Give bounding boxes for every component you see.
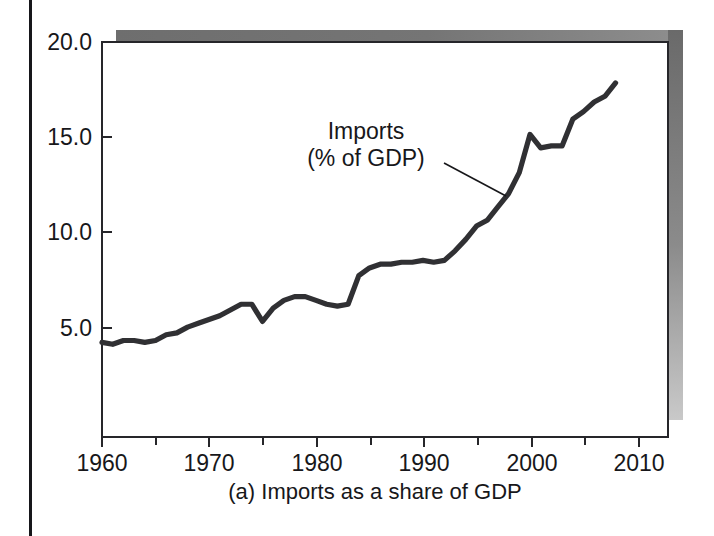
- figure-caption: (a) Imports as a share of GDP: [135, 479, 615, 505]
- annotation-imports-label: Imports (% of GDP): [286, 118, 446, 172]
- annotation-line-2: (% of GDP): [286, 145, 446, 172]
- annotation-leader-line: [444, 163, 506, 196]
- annotation-line-1: Imports: [328, 118, 405, 144]
- figure-imports-share-of-gdp: 20.0 15.0 10.0 5.0 1960 1970 1980 1990 2…: [0, 0, 714, 536]
- series-layer: [0, 0, 714, 536]
